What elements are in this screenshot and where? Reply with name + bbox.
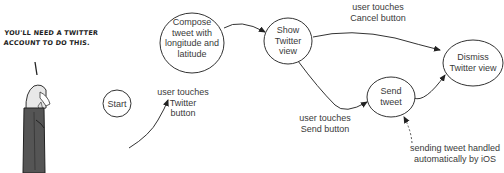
cartoon-caption: YOU'LL NEED A TWITTER ACCOUNT TO DO THIS… — [3, 28, 98, 48]
edge-auto-note — [404, 117, 412, 143]
edge-show-to-dismiss — [313, 33, 440, 50]
edge-send-to-dismiss — [414, 75, 445, 99]
edge-compose-to-show — [224, 24, 265, 32]
edge-label-show-to-send: user touches Send button — [290, 113, 360, 134]
node-show-label: Show Twitter view — [264, 25, 312, 57]
edge-label-start-to-compose: user touches Twitter button — [148, 87, 218, 119]
edge-label-auto-note: sending tweet handled automatically by i… — [405, 143, 504, 164]
cartoon-character-icon — [23, 62, 50, 173]
node-compose-label: Compose tweet with longitude and latitud… — [160, 17, 224, 59]
edge-label-show-to-dismiss: user touches Cancel button — [338, 2, 418, 23]
edge-show-to-send — [298, 61, 367, 109]
node-send-label: Send tweet — [367, 86, 415, 107]
node-dismiss-label: Dismiss Twitter view — [443, 52, 503, 73]
node-start-label: Start — [103, 99, 131, 110]
